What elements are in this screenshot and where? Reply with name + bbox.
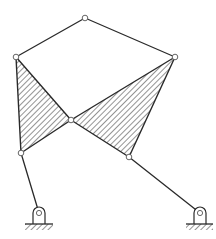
right-ground-pivot-joint <box>197 210 202 215</box>
left-upper-joint <box>13 54 19 60</box>
right-lower-joint <box>126 154 132 160</box>
left-ternary-plate <box>16 57 71 153</box>
right-rocker <box>129 157 200 213</box>
left-lower-joint <box>18 150 24 156</box>
left-ground-support <box>25 207 53 230</box>
right-ground-support <box>186 207 213 230</box>
top-left-bar <box>16 18 85 57</box>
linkage-diagram <box>0 0 216 239</box>
right-ternary-plate <box>71 57 175 157</box>
left-rocker <box>21 153 39 213</box>
right-ground-hatch <box>186 224 213 230</box>
left-ground-pivot-joint <box>36 210 41 215</box>
left-ground-hatch <box>25 224 53 230</box>
top-right-bar <box>85 18 175 57</box>
right-upper-joint <box>172 54 178 60</box>
center-joint <box>68 117 74 123</box>
top-joint <box>82 15 88 21</box>
